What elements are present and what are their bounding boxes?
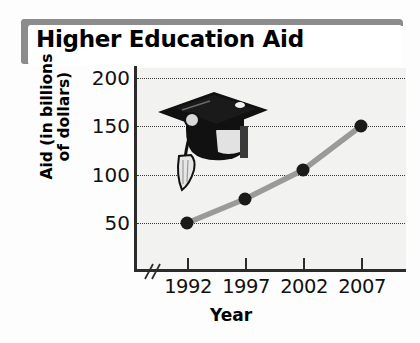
chart-figure: Higher Education Aid Aid (in billions of…: [0, 0, 420, 343]
data-point-1992: [181, 217, 194, 230]
data-point-2007: [355, 120, 368, 133]
data-point-1997: [239, 193, 252, 206]
data-point-2002: [297, 164, 310, 177]
data-series-aid: [0, 0, 420, 343]
series-line: [187, 126, 361, 223]
